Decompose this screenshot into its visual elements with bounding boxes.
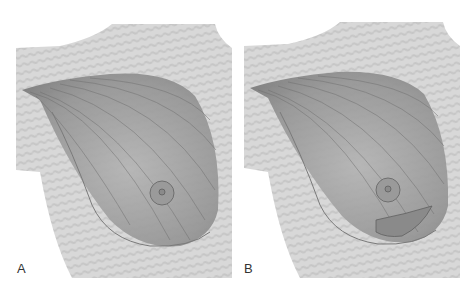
panel-b: B: [236, 0, 471, 289]
panel-label-b: B: [244, 261, 253, 276]
panel-label-a: A: [17, 261, 26, 276]
breast-illustration-b: [236, 0, 471, 289]
breast-illustration-a: [0, 0, 235, 289]
panel-a: A: [0, 0, 235, 289]
